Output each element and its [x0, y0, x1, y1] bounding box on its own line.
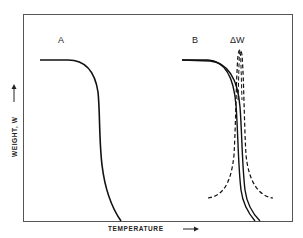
y-axis-arrow-icon — [12, 84, 17, 102]
panel-label-a: A — [58, 35, 64, 45]
curve-a — [40, 60, 121, 221]
x-axis-label: TEMPERATURE — [108, 225, 164, 232]
x-axis-arrow-icon — [183, 227, 199, 232]
delta-w-label: ΔW — [230, 35, 245, 45]
plot-frame — [24, 15, 293, 222]
curve-delta-w-inner — [238, 50, 242, 100]
curve-b-2 — [182, 60, 260, 221]
y-axis-label: WEIGHT, W — [11, 116, 19, 157]
tga-figure: A B ΔW TEMPERATURE WEIGHT, W — [0, 0, 303, 238]
panel-label-b: B — [192, 35, 198, 45]
